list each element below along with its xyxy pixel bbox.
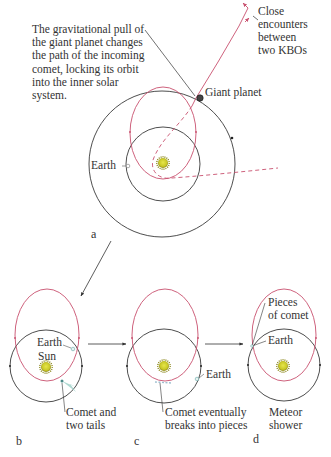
panel-label-a: a (91, 227, 96, 242)
caption-leader (145, 30, 195, 96)
pieces-of-comet-label: Pieces of comet (268, 296, 309, 322)
comet-breaks-label: Comet eventually breaks into pieces (165, 406, 247, 432)
panel-label-c: c (134, 434, 139, 449)
sun-c (158, 360, 170, 372)
earth-c (195, 377, 199, 381)
sun-d (277, 360, 289, 372)
orbit-direction-dot (231, 137, 234, 140)
earth-label-d: Earth (268, 334, 293, 347)
sun-a (157, 157, 169, 169)
comet-fragments-c (155, 382, 172, 383)
earth-d-leader (252, 341, 266, 346)
gravitational-pull-caption: The gravitational pull of the giant plan… (32, 23, 152, 102)
earth-d (251, 345, 254, 348)
panel-label-d: d (253, 432, 259, 447)
kbo-encounters-label: Close encounters between two KBOs (258, 5, 308, 57)
panel-label-b: b (16, 434, 22, 449)
earth-label-a: Earth (91, 159, 116, 172)
arrow-a-to-b (81, 241, 111, 296)
meteor-shower-label: Meteor shower (269, 406, 302, 432)
earth-a (126, 164, 130, 168)
panel-c (126, 289, 243, 412)
giant-planet-label: Giant planet (205, 86, 262, 99)
giant-planet (197, 95, 203, 101)
dashed-comet-path (152, 106, 278, 178)
comet-b (61, 380, 64, 383)
sun-label-b: Sun (38, 350, 56, 363)
panel-b (9, 289, 126, 412)
earth-b (71, 347, 75, 351)
earth-label-c: Earth (206, 368, 231, 381)
earth-label-b: Earth (37, 336, 62, 349)
comet-tails-label: Comet and two tails (66, 406, 116, 432)
